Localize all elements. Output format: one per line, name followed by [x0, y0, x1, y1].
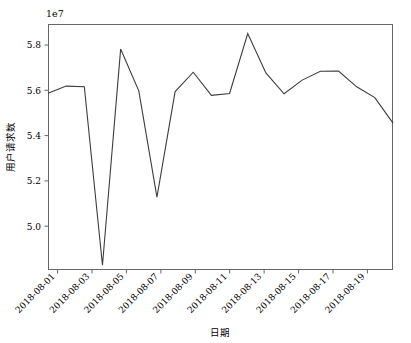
y-axis-title: 用户请求数: [5, 122, 16, 172]
y-tick-label: 5.4: [27, 131, 42, 141]
y-tick-label: 5.2: [27, 176, 41, 186]
x-tick-labels: 2018-08-01 2018-08-03 2018-08-05 2018-08…: [13, 271, 367, 315]
y-tick-labels: 5.0 5.2 5.4 5.6 5.8: [27, 40, 42, 231]
y-tick-label: 5.0: [27, 222, 42, 232]
x-tick-marks: [58, 270, 368, 274]
y-tick-label: 5.6: [27, 86, 42, 96]
y-tick-marks: [45, 45, 49, 226]
x-axis-title: 日期: [210, 327, 230, 338]
y-axis-exponent-label: 1e7: [46, 8, 64, 19]
y-tick-label: 5.8: [27, 40, 42, 50]
chart-figure: 5.0 5.2 5.4 5.6 5.8 1e7 2018-08-01 2018-…: [0, 0, 411, 343]
line-chart-canvas: 5.0 5.2 5.4 5.6 5.8 1e7 2018-08-01 2018-…: [0, 0, 411, 343]
